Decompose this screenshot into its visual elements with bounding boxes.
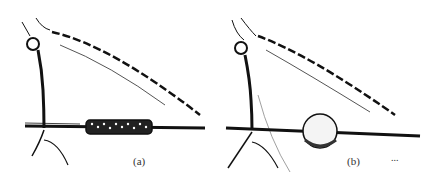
- panel-a-drawing: [22, 18, 205, 165]
- panel-b-label: (b): [347, 155, 360, 167]
- panel-b-drawing: [226, 18, 420, 172]
- panel-a-label: (a): [133, 155, 145, 167]
- illustration-figure: (a) (b) ...: [0, 0, 437, 183]
- footnote-marker: ...: [391, 152, 399, 163]
- figure-drawing: [0, 0, 437, 183]
